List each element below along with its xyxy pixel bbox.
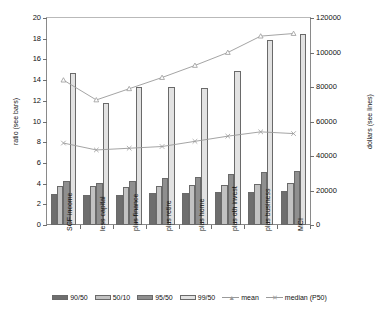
y-tick-right [310, 18, 314, 19]
y-ticklabel-left: 14 [33, 76, 41, 84]
y-ticklabel-left: 10 [33, 118, 41, 126]
x-category-label: plus home [198, 199, 205, 231]
legend-swatch-icon [180, 295, 196, 300]
plot-inner: 02468101214161820 0200004000060000800001… [47, 18, 310, 225]
legend-swatch-icon [137, 295, 153, 300]
y-tick-left [43, 59, 47, 60]
legend-line-marker-icon: ▲ [222, 294, 239, 301]
legend-item-90-50[interactable]: 90/50 [52, 294, 88, 301]
y-ticklabel-right: 40000 [316, 152, 337, 160]
legend-item-mean[interactable]: ▲mean [222, 294, 259, 301]
y-tick-left [43, 204, 47, 205]
legend-label: 90/50 [70, 294, 88, 301]
legend-item-median--p50-[interactable]: ✕median (P50) [266, 294, 327, 301]
y-tick-right [310, 122, 314, 123]
x-tick [80, 225, 81, 229]
legend-label: 99/50 [198, 294, 216, 301]
y-tick-left [43, 18, 47, 19]
y-ticklabel-left: 2 [37, 200, 41, 208]
legend-label: median (P50) [285, 294, 327, 301]
bar-group [149, 18, 175, 225]
legend-line-marker-icon: ✕ [266, 294, 283, 301]
y-ticklabel-left: 20 [33, 14, 41, 22]
y-tick-left [43, 184, 47, 185]
y-ticklabel-left: 18 [33, 35, 41, 43]
x-tick [179, 225, 180, 229]
y-tick-left [43, 163, 47, 164]
y-ticklabel-left: 8 [37, 138, 41, 146]
x-category-label: plus business [264, 189, 271, 231]
y-tick-left [43, 39, 47, 40]
plot-area: 02468101214161820 0200004000060000800001… [46, 17, 311, 225]
bar-group [182, 18, 208, 225]
y-ticklabel-left: 16 [33, 55, 41, 63]
bar-99-50 [300, 34, 306, 225]
chart-legend: 90/5050/1095/5099/50▲mean✕median (P50) [0, 294, 379, 301]
legend-swatch-icon [95, 295, 111, 300]
x-tick [211, 225, 212, 229]
y-ticklabel-right: 0 [316, 221, 320, 229]
x-category-label: MCI [297, 218, 304, 231]
x-category-label: SCF income [66, 192, 73, 231]
y-ticklabel-left: 6 [37, 159, 41, 167]
legend-label: mean [241, 294, 259, 301]
legend-label: 95/50 [155, 294, 173, 301]
legend-swatch-icon [52, 295, 68, 300]
y-tick-left [43, 80, 47, 81]
x-category-label: plus oth invest [231, 186, 238, 231]
x-category-label: less capital [99, 196, 106, 231]
x-tick [310, 225, 311, 229]
y-tick-left [43, 225, 47, 226]
y-ticklabel-left: 4 [37, 180, 41, 188]
y-tick-right [310, 53, 314, 54]
y-axis-right-title: dollars (see lines) [366, 75, 373, 169]
y-tick-right [310, 156, 314, 157]
y-tick-right [310, 87, 314, 88]
bar-group [83, 18, 109, 225]
legend-item-50-10[interactable]: 50/10 [95, 294, 131, 301]
x-tick [244, 225, 245, 229]
legend-label: 50/10 [113, 294, 131, 301]
y-ticklabel-right: 100000 [316, 49, 341, 57]
y-ticklabel-left: 0 [37, 221, 41, 229]
y-axis-left-title: ratio (see bars) [12, 77, 19, 167]
x-tick [277, 225, 278, 229]
x-tick [113, 225, 114, 229]
chart-container: ratio (see bars) dollars (see lines) 024… [0, 0, 379, 317]
y-tick-left [43, 122, 47, 123]
y-ticklabel-left: 12 [33, 97, 41, 105]
y-tick-right [310, 191, 314, 192]
y-ticklabel-right: 20000 [316, 187, 337, 195]
x-category-label: plus retire [165, 200, 172, 231]
y-tick-left [43, 101, 47, 102]
y-ticklabel-right: 80000 [316, 83, 337, 91]
legend-item-99-50[interactable]: 99/50 [180, 294, 216, 301]
y-ticklabel-right: 120000 [316, 14, 341, 22]
y-ticklabel-right: 60000 [316, 118, 337, 126]
y-tick-left [43, 142, 47, 143]
legend-item-95-50[interactable]: 95/50 [137, 294, 173, 301]
bar-group [281, 18, 307, 225]
x-tick [146, 225, 147, 229]
x-category-label: plus finance [132, 194, 139, 231]
